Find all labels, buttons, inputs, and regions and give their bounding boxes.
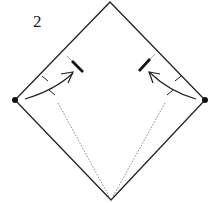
left-target-mark-bold	[72, 61, 83, 72]
right-edge-tick	[175, 76, 181, 81]
right-fold-arrow-icon	[149, 72, 196, 99]
right-target-mark-bold	[139, 59, 150, 71]
right-corner-dot	[202, 97, 208, 103]
right-edge-tick-2	[167, 90, 173, 95]
square-paper-outline	[15, 2, 205, 200]
left-edge-tick	[42, 76, 48, 81]
left-valley-fold-line	[58, 103, 111, 200]
left-fold-arrow-icon	[25, 73, 73, 99]
left-target-mark	[67, 56, 72, 61]
right-target-mark	[150, 54, 155, 59]
left-edge-tick-2	[49, 90, 55, 95]
left-corner-dot	[12, 97, 18, 103]
origami-diagram	[0, 0, 224, 203]
